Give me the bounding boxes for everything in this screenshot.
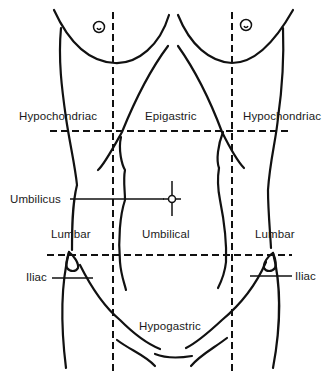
umbilicus-marker bbox=[70, 181, 181, 216]
region-dividers bbox=[47, 12, 292, 372]
left-rectus-line bbox=[119, 137, 126, 290]
torso-outline bbox=[54, 10, 293, 368]
left-flank-line bbox=[60, 28, 77, 250]
label-hypochondriac-right: Hypochondriac bbox=[243, 111, 321, 123]
left-pectoral-curve bbox=[54, 10, 169, 63]
label-lumbar-right: Lumbar bbox=[255, 229, 295, 241]
right-rectus-line bbox=[218, 132, 227, 288]
left-costal-margin bbox=[98, 46, 168, 170]
label-hypogastric: Hypogastric bbox=[139, 321, 201, 333]
label-epigastric: Epigastric bbox=[145, 111, 197, 123]
iliac-pointers bbox=[52, 276, 292, 278]
right-costal-margin bbox=[178, 46, 244, 168]
nipple-icon bbox=[94, 22, 105, 33]
crosshair-icon bbox=[163, 181, 181, 216]
nipple-icon bbox=[241, 20, 252, 31]
inguinal-lines bbox=[80, 262, 266, 366]
label-umbilicus: Umbilicus bbox=[10, 194, 61, 206]
label-iliac-left: Iliac bbox=[26, 272, 47, 284]
label-umbilical: Umbilical bbox=[142, 229, 190, 241]
label-hypochondriac-left: Hypochondriac bbox=[19, 111, 97, 123]
right-pectoral-curve bbox=[178, 10, 293, 63]
nipples bbox=[94, 20, 252, 33]
pubic-line bbox=[155, 354, 192, 357]
label-iliac-right: Iliac bbox=[295, 271, 316, 283]
right-inguinal-line bbox=[186, 262, 266, 348]
right-flank-line bbox=[268, 28, 283, 248]
label-lumbar-left: Lumbar bbox=[51, 229, 91, 241]
